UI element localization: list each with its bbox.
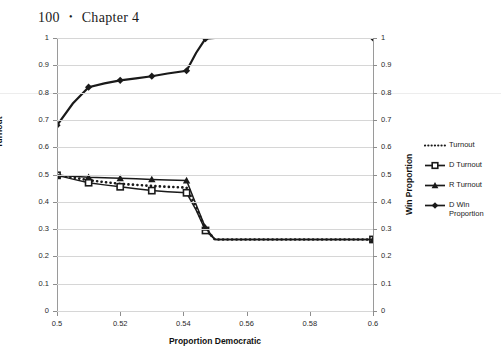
axis-tick (373, 256, 377, 257)
y-axis-right-tick-label: 0.2 (381, 252, 391, 260)
axis-tick (53, 93, 57, 94)
axis-tick (310, 312, 311, 316)
chart-legend: TurnoutD TurnoutR TurnoutD Win Proportio… (424, 140, 498, 220)
x-axis-title: Proportion Democratic (0, 336, 430, 346)
y-axis-right-tick-label: 0.8 (381, 89, 391, 97)
data-point-marker (149, 188, 155, 194)
gridline-horizontal (57, 175, 374, 176)
axis-tick (53, 65, 57, 66)
page-number: 100 (38, 10, 60, 25)
chart-plot-area (57, 38, 374, 312)
y-axis-right-tick-label: 0.7 (381, 116, 391, 124)
axis-tick (373, 38, 377, 39)
gridline-horizontal (57, 311, 374, 312)
gridline-horizontal (57, 120, 374, 121)
axis-tick (373, 175, 377, 176)
legend-entry: Turnout (424, 140, 498, 160)
data-point-marker (117, 77, 124, 84)
y-axis-right-tick-label: 0.9 (381, 61, 391, 69)
chapter-title: Chapter 4 (82, 10, 140, 25)
legend-label: Turnout (449, 140, 499, 149)
y-axis-left-tick-label: 0.1 (13, 280, 49, 288)
page-header: 100•Chapter 4 (38, 10, 139, 26)
axis-tick (53, 120, 57, 121)
data-point-marker (117, 184, 123, 190)
gridline-horizontal (57, 202, 374, 203)
legend-marker-square-icon (424, 161, 446, 170)
data-point-marker (183, 190, 189, 196)
y-axis-right-tick-label: 0.1 (381, 280, 391, 288)
y-axis-right-tick-label: 0.3 (381, 225, 391, 233)
x-axis-tick-label: 0.54 (163, 320, 203, 328)
legend-entry: D Turnout (424, 160, 498, 180)
y-axis-right-tick-label: 0.6 (381, 143, 391, 151)
legend-label: R Turnout (449, 180, 499, 189)
data-point-marker (86, 180, 92, 186)
legend-entry: R Turnout (424, 180, 498, 200)
legend-label: D Turnout (449, 160, 499, 169)
x-axis-tick-label: 0.5 (37, 320, 77, 328)
y-axis-left-tick-label: 1 (13, 34, 49, 42)
y-axis-left-tick-label: 0.4 (13, 198, 49, 206)
axis-tick (120, 312, 121, 316)
y-axis-left-tick-label: 0.8 (13, 89, 49, 97)
axis-tick (373, 147, 377, 148)
axis-tick (53, 284, 57, 285)
gridline-horizontal (57, 93, 374, 94)
axis-tick (183, 312, 184, 316)
x-axis-tick-label: 0.56 (227, 320, 267, 328)
gridline-horizontal (57, 229, 374, 230)
y-axis-left-tick-label: 0.5 (13, 171, 49, 179)
legend-label: D Win Proportion (449, 200, 499, 218)
gridline-horizontal (57, 38, 374, 39)
y-axis-left-tick-label: 0.7 (13, 116, 49, 124)
axis-tick (53, 256, 57, 257)
y-axis-left-tick-label: 0.2 (13, 252, 49, 260)
axis-tick (373, 202, 377, 203)
axis-tick (57, 312, 58, 316)
y-axis-right-title: Win Proportion (404, 154, 414, 215)
data-point-marker (148, 73, 155, 80)
y-axis-right-tick-label: 0.4 (381, 198, 391, 206)
legend-marker-none-icon (424, 141, 446, 150)
y-axis-left-title: Turnout (0, 117, 4, 148)
data-series-line (57, 38, 373, 125)
gridline-horizontal (57, 147, 374, 148)
y-axis-right-tick-label: 1 (381, 34, 385, 42)
axis-tick (53, 147, 57, 148)
x-axis-tick-label: 0.58 (290, 320, 330, 328)
x-axis-tick-label: 0.52 (100, 320, 140, 328)
axis-tick (247, 312, 248, 316)
y-axis-left-tick-label: 0.6 (13, 143, 49, 151)
axis-tick (53, 38, 57, 39)
y-axis-left-tick-label: 0.9 (13, 61, 49, 69)
y-axis-right-tick-label: 0.5 (381, 171, 391, 179)
y-axis-left-tick-label: 0.3 (13, 225, 49, 233)
y-axis-right-tick-label: 0 (381, 307, 385, 315)
axis-tick (373, 93, 377, 94)
axis-tick (53, 175, 57, 176)
axis-tick (53, 229, 57, 230)
axis-tick (373, 284, 377, 285)
axis-tick (373, 312, 374, 316)
gridline-horizontal (57, 284, 374, 285)
axis-tick (373, 120, 377, 121)
axis-tick (53, 202, 57, 203)
y-axis-left-tick-label: 0 (13, 307, 49, 315)
gridline-horizontal (57, 256, 374, 257)
axis-tick (373, 229, 377, 230)
legend-marker-diamond-icon (424, 201, 446, 210)
x-axis-tick-label: 0.6 (353, 320, 393, 328)
header-bullet-icon: • (69, 11, 73, 22)
axis-tick (373, 65, 377, 66)
gridline-horizontal (57, 65, 374, 66)
legend-entry: D Win Proportion (424, 200, 498, 220)
legend-marker-triangle-icon (424, 181, 446, 190)
